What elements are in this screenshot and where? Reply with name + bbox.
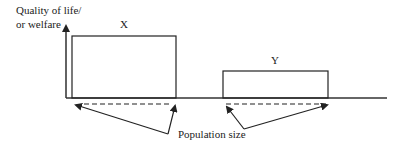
- arrow-y-left: [227, 107, 244, 129]
- y-axis-label-line2: or welfare: [16, 18, 61, 31]
- y-axis-label-line1: Quality of life/: [16, 4, 81, 17]
- box-y: [223, 71, 328, 98]
- population-size-label: Population size: [178, 128, 246, 141]
- arrow-x-right: [168, 106, 175, 134]
- box-x-label: X: [120, 18, 128, 31]
- box-y-label: Y: [271, 54, 279, 67]
- box-x: [72, 36, 176, 98]
- arrow-x-left: [76, 105, 168, 134]
- arrow-y-right: [244, 105, 327, 129]
